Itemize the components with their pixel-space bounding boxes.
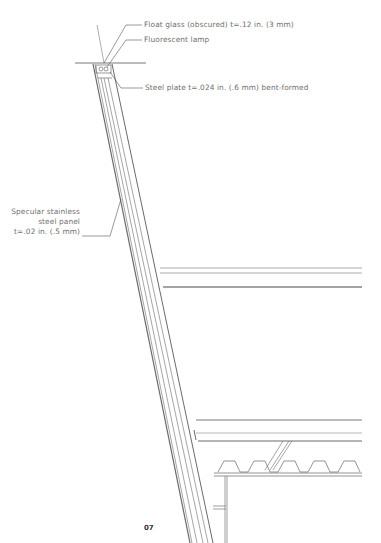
callout-stainless-line-1: Specular stainless [11, 207, 80, 217]
metal-deck [214, 461, 362, 476]
slanted-panel [93, 64, 213, 543]
callout-float-glass: Float glass (obscured) t=.12 in. (3 mm) [144, 20, 294, 30]
lamp-housing [96, 65, 112, 78]
diagonal-brace [265, 441, 292, 470]
reference-line [97, 25, 104, 63]
callout-stainless-panel: Specular stainless steel panel t=.02 in.… [11, 207, 80, 237]
vertical-post [213, 476, 227, 543]
page-number: 07 [144, 524, 154, 532]
section-drawing [0, 0, 381, 543]
callout-fluorescent-lamp: Fluorescent lamp [144, 35, 209, 45]
upper-beam [160, 268, 362, 287]
lower-beam [194, 420, 362, 441]
leader-lines [82, 25, 143, 236]
callout-steel-plate: Steel plate t=.024 in. (.6 mm) bent-form… [145, 83, 309, 93]
callout-stainless-line-2: steel panel [11, 217, 80, 227]
callout-stainless-line-3: t=.02 in. (.5 mm) [11, 227, 80, 237]
